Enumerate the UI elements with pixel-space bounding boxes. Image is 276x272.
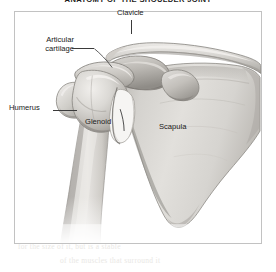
label-glenoid: Glenoid [85, 117, 111, 126]
leader-line-articular-cartilage [72, 48, 94, 49]
label-humerus: Humerus [9, 103, 40, 112]
label-articular-cartilage-line1: Articular [46, 35, 74, 44]
leader-line-clavicle [131, 20, 132, 34]
leader-line-humerus [53, 110, 77, 111]
label-clavicle: Clavicle [117, 8, 144, 17]
label-articular-cartilage: Articularcartilage [18, 35, 74, 54]
label-scapula: Scapula [159, 122, 186, 131]
figure-title: ANATOMY OF THE SHOULDER JOINT [0, 0, 276, 4]
ghost-text-line: of the muscles that surround it [60, 256, 160, 265]
label-articular-cartilage-line2: cartilage [45, 44, 74, 53]
